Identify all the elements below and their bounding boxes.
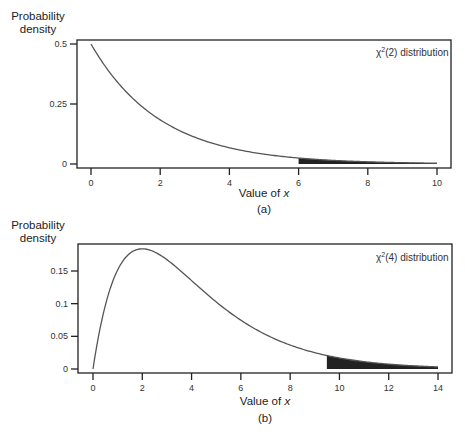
x-tick-label: 10 — [334, 383, 344, 393]
y-axis-title-line2: density — [20, 23, 57, 35]
y-axis-title-line1: Probability — [11, 10, 65, 22]
x-tick-label: 6 — [296, 178, 301, 188]
y-tick-label: 0.15 — [50, 266, 68, 276]
x-tick-label: 6 — [238, 383, 243, 393]
panel-caption: (b) — [258, 412, 272, 424]
density-curve — [93, 249, 438, 369]
x-tick-label: 8 — [365, 178, 370, 188]
x-axis-title: Value of x — [239, 187, 291, 199]
y-tick-label: 0 — [63, 364, 68, 374]
chart-panel-a: Probability density 00.250.5 0246810 χ2(… — [11, 10, 451, 215]
x-tick-label: 14 — [433, 383, 443, 393]
y-tick-label: 0.25 — [49, 99, 67, 109]
y-tick-label: 0.05 — [50, 331, 68, 341]
plot-frame — [78, 244, 452, 373]
y-axis-ticks: 00.050.10.15 — [50, 266, 78, 374]
x-tick-label: 8 — [288, 383, 293, 393]
chart-panel-b: Probability density 00.050.10.15 0246810… — [11, 219, 452, 424]
y-tick-label: 0.1 — [55, 299, 68, 309]
y-axis-title-line2: density — [20, 232, 57, 244]
y-tick-label: 0.5 — [54, 39, 67, 49]
y-axis-title-line1: Probability — [11, 219, 65, 231]
x-axis-ticks: 0246810 — [88, 168, 442, 188]
density-curve — [91, 44, 437, 163]
plot-frame — [77, 40, 451, 168]
legend-label: χ2(2) distribution — [376, 46, 449, 58]
x-axis-title: Value of x — [240, 395, 292, 407]
chart-canvas: Probability density 00.250.5 0246810 χ2(… — [0, 0, 465, 440]
x-tick-label: 2 — [140, 383, 145, 393]
panel-caption: (a) — [257, 203, 271, 215]
x-tick-label: 0 — [90, 383, 95, 393]
x-tick-label: 2 — [158, 178, 163, 188]
x-tick-label: 4 — [189, 383, 194, 393]
x-tick-label: 0 — [88, 178, 93, 188]
x-tick-label: 4 — [227, 178, 232, 188]
x-tick-label: 12 — [384, 383, 394, 393]
x-tick-label: 10 — [432, 178, 442, 188]
y-tick-label: 0 — [62, 159, 67, 169]
shaded-tail-region — [327, 356, 438, 369]
legend-label: χ2(4) distribution — [376, 251, 449, 263]
y-axis-ticks: 00.250.5 — [49, 39, 77, 169]
x-axis-ticks: 02468101214 — [90, 373, 443, 393]
